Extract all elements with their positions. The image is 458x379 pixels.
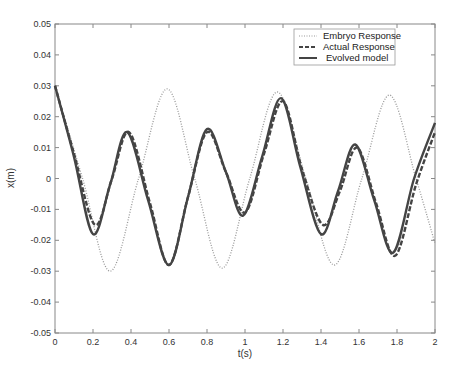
y-tick-label: -0.01	[30, 204, 51, 214]
y-tick-label: -0.03	[30, 266, 51, 276]
x-tick-label: 0.4	[125, 337, 138, 347]
x-tick-label: 0	[52, 337, 57, 347]
y-tick-label: 0	[46, 174, 51, 184]
y-tick-label: 0.03	[33, 81, 51, 91]
legend-label-actual: Actual Response	[323, 41, 395, 52]
x-tick-label: 1.8	[391, 337, 404, 347]
y-axis-label: x(m)	[5, 168, 16, 188]
x-axis-label: t(s)	[238, 348, 252, 359]
y-tick-label: -0.02	[30, 235, 51, 245]
x-tick-label: 1.6	[353, 337, 366, 347]
x-tick-label: 0.8	[201, 337, 214, 347]
legend-label-evolved: Evolved model	[326, 52, 388, 63]
legend: Embryo Response Actual Response Evolved …	[294, 29, 401, 65]
line-chart: 00.20.40.60.811.21.41.61.820.050.040.030…	[0, 0, 458, 379]
x-tick-label: 2	[432, 337, 437, 347]
legend-label-embryo: Embryo Response	[323, 30, 401, 41]
x-tick-label: 1.2	[277, 337, 290, 347]
x-tick-label: 0.2	[87, 337, 100, 347]
y-tick-label: 0.04	[33, 50, 51, 60]
x-tick-label: 1.4	[315, 337, 328, 347]
x-tick-label: 0.6	[163, 337, 176, 347]
y-tick-label: -0.05	[30, 328, 51, 338]
x-tick-label: 1	[242, 337, 247, 347]
y-tick-label: 0.02	[33, 112, 51, 122]
y-tick-label: 0.01	[33, 143, 51, 153]
y-tick-label: 0.05	[33, 19, 51, 29]
y-tick-label: -0.04	[30, 297, 51, 307]
